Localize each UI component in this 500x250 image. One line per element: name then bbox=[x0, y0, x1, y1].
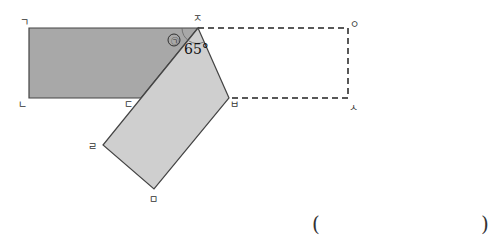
label-r: ㄹ bbox=[88, 141, 97, 152]
label-n: ㄴ bbox=[18, 99, 27, 110]
answer-close-paren: ) bbox=[481, 212, 489, 236]
folded-rectangle-diagram: ㉠ 65° ㄱ ㄴ ㄷ ㄹ ㅁ ㅂ ㅅ ㅇ ㅈ bbox=[0, 0, 500, 250]
label-s: ㅅ bbox=[349, 102, 358, 113]
label-d: ㄷ bbox=[124, 99, 133, 110]
angle-value: 65° bbox=[184, 41, 209, 57]
answer-open-paren: ( bbox=[312, 212, 320, 236]
label-o: ㅇ bbox=[350, 19, 359, 30]
label-j: ㅈ bbox=[193, 13, 202, 24]
label-b: ㅂ bbox=[230, 99, 239, 110]
label-g: ㄱ bbox=[20, 17, 29, 28]
label-m: ㅁ bbox=[149, 194, 158, 205]
angle-marker: ㉠ bbox=[171, 37, 179, 46]
